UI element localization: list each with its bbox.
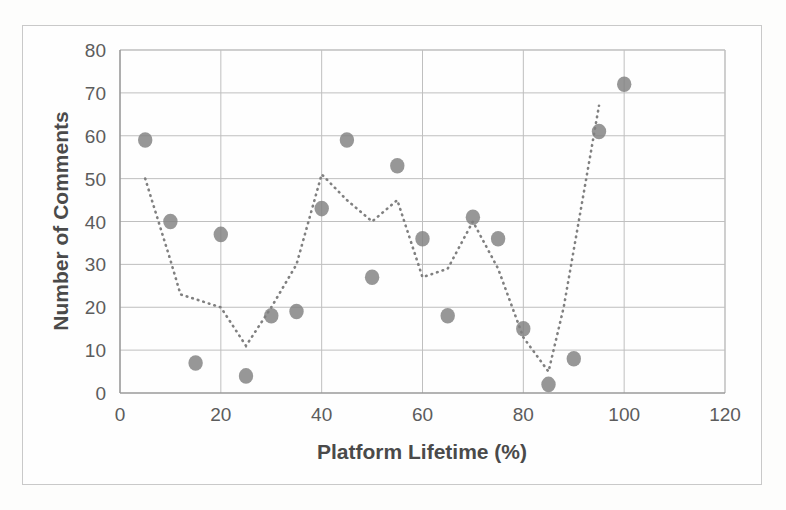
scatter-point bbox=[466, 209, 480, 225]
scatter-point bbox=[617, 77, 631, 93]
y-tick-label: 50 bbox=[85, 169, 106, 190]
y-tick-label: 10 bbox=[85, 340, 106, 361]
y-axis-tick-labels: 01020304050607080 bbox=[85, 40, 106, 404]
x-axis-tick-labels: 020406080100120 bbox=[115, 404, 741, 425]
scatter-point bbox=[592, 124, 606, 140]
scatter-point bbox=[567, 351, 581, 367]
scatter-chart[interactable]: 020406080100120 01020304050607080 Platfo… bbox=[0, 0, 786, 510]
scatter-point bbox=[239, 368, 253, 384]
scatter-point bbox=[415, 231, 429, 247]
y-tick-label: 40 bbox=[85, 212, 106, 233]
scatter-point bbox=[264, 308, 278, 324]
scatter-point bbox=[390, 158, 404, 174]
trend-line bbox=[145, 106, 599, 372]
x-tick-label: 80 bbox=[513, 404, 534, 425]
scatter-point bbox=[315, 201, 329, 217]
scatter-point bbox=[516, 321, 530, 337]
chart-figure: 020406080100120 01020304050607080 Platfo… bbox=[0, 0, 786, 510]
x-tick-label: 60 bbox=[412, 404, 433, 425]
gridlines-group bbox=[120, 50, 725, 393]
x-tick-label: 100 bbox=[608, 404, 640, 425]
scatter-point bbox=[491, 231, 505, 247]
scatter-point bbox=[163, 214, 177, 230]
scatter-point bbox=[441, 308, 455, 324]
scatter-point bbox=[289, 304, 303, 320]
y-tick-label: 20 bbox=[85, 297, 106, 318]
y-tick-label: 30 bbox=[85, 254, 106, 275]
y-tick-label: 80 bbox=[85, 40, 106, 61]
scatter-point bbox=[188, 355, 202, 371]
x-axis-title: Platform Lifetime (%) bbox=[317, 440, 527, 463]
scatter-point bbox=[138, 132, 152, 148]
scatter-points-group bbox=[138, 77, 631, 393]
x-tick-label: 0 bbox=[115, 404, 126, 425]
scatter-point bbox=[365, 269, 379, 285]
scatter-point bbox=[340, 132, 354, 148]
x-tick-label: 120 bbox=[709, 404, 741, 425]
trend-line-path bbox=[145, 106, 599, 372]
x-tick-label: 40 bbox=[311, 404, 332, 425]
y-tick-label: 0 bbox=[95, 383, 106, 404]
x-tick-label: 20 bbox=[210, 404, 231, 425]
y-tick-label: 60 bbox=[85, 126, 106, 147]
scatter-point bbox=[214, 227, 228, 243]
y-tick-label: 70 bbox=[85, 83, 106, 104]
scatter-point bbox=[541, 377, 555, 393]
y-axis-title: Number of Comments bbox=[49, 111, 72, 330]
